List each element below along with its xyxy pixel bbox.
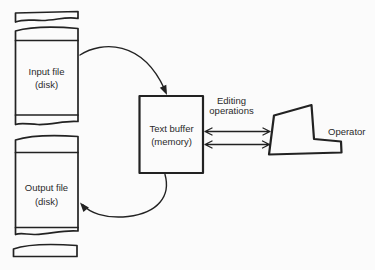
input-file-torn-strip-icon <box>16 12 79 23</box>
output-file-symbol: Output file (disk) <box>14 136 79 257</box>
output-file-label-line1: Output file <box>25 182 68 193</box>
text-editor-dataflow-diagram: Input file (disk) Output file (disk) Tex… <box>0 0 375 270</box>
output-file-label-line2: (disk) <box>35 196 58 207</box>
buffer-to-output-arrowhead-icon <box>80 203 89 213</box>
input-to-buffer-arrow <box>80 47 167 95</box>
editing-operations-label-line1: Editing <box>217 95 246 106</box>
input-file-band-lines <box>16 41 79 116</box>
editing-arrow-lower <box>205 141 270 148</box>
input-file-label-line1: Input file <box>29 66 65 77</box>
input-to-buffer-arrow-line <box>80 47 165 89</box>
operator-label: Operator <box>328 126 366 137</box>
text-buffer-rect <box>140 96 204 173</box>
text-buffer-label-line1: Text buffer <box>149 123 193 134</box>
input-file-label-line2: (disk) <box>35 79 58 90</box>
editing-operations-label-line2: operations <box>209 105 254 116</box>
editing-operations-arrows: Editing operations <box>205 95 270 149</box>
editing-arrow-upper <box>205 128 270 135</box>
text-buffer-box: Text buffer (memory) <box>140 96 204 173</box>
input-to-buffer-arrowhead-icon <box>160 85 167 95</box>
operator-node: Operator <box>269 105 366 155</box>
output-file-torn-strip-icon <box>14 245 78 257</box>
text-buffer-label-line2: (memory) <box>151 136 192 147</box>
input-file-symbol: Input file (disk) <box>16 12 79 125</box>
buffer-to-output-arrow-line <box>83 175 166 218</box>
buffer-to-output-arrow <box>80 175 166 218</box>
